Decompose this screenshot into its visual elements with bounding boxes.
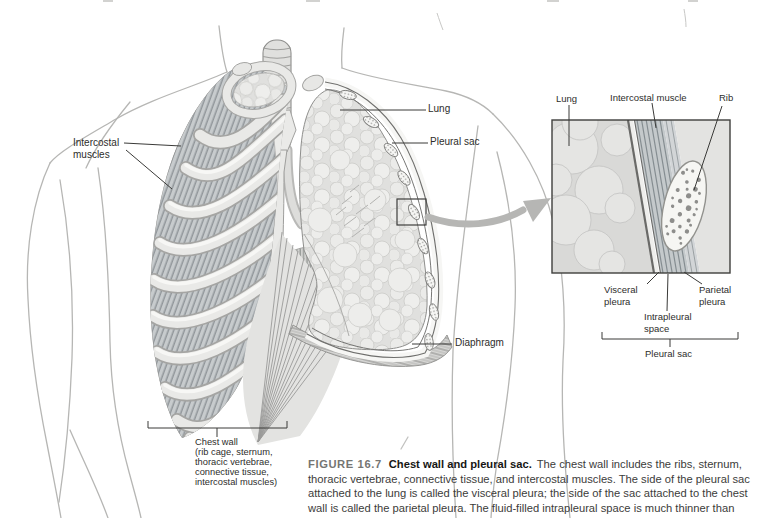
label-diaphragm: Diaphragm <box>455 337 504 349</box>
parietal-line2: pleura <box>699 296 731 308</box>
figure-title: Chest wall and pleural sac. <box>389 458 532 470</box>
label-chest-wall: Chest wall (rib cage, sternum, thoracic … <box>195 438 277 488</box>
inset-label-intercostal-muscle: Intercostal muscle <box>610 92 687 104</box>
inset-label-parietal-pleura: Parietal pleura <box>699 284 731 308</box>
figure-caption: FIGURE 16.7Chest wall and pleural sac.Th… <box>308 457 761 515</box>
chest-wall-line5: intercostal muscles) <box>195 478 277 488</box>
inset-label-lung: Lung <box>556 93 577 105</box>
page-crop-artifacts <box>103 0 698 30</box>
intrapleural-line1: Intrapleural <box>644 311 692 323</box>
inset-label-intrapleural-space: Intrapleural space <box>644 311 692 335</box>
zoom-arrow <box>428 198 551 224</box>
inset-label-pleural-sac: Pleural sac <box>645 348 692 360</box>
right-lung-group <box>289 82 452 366</box>
label-lung: Lung <box>428 103 450 115</box>
textbook-figure-page: Intercostal muscles Lung Pleural sac Dia… <box>0 0 763 518</box>
visceral-line2: pleura <box>604 296 638 308</box>
label-intercostal-line2: muscles <box>73 149 119 161</box>
label-intercostal-muscles: Intercostal muscles <box>73 137 119 160</box>
label-intercostal-line1: Intercostal <box>73 137 119 149</box>
anatomy-illustration <box>0 0 763 518</box>
parietal-line1: Parietal <box>699 284 731 296</box>
visceral-line1: Visceral <box>604 284 638 296</box>
label-pleural-sac: Pleural sac <box>430 136 479 148</box>
inset-label-visceral-pleura: Visceral pleura <box>604 284 638 308</box>
intrapleural-line2: space <box>644 323 692 335</box>
figure-number: FIGURE 16.7 <box>308 458 382 470</box>
inset-label-rib: Rib <box>719 92 733 104</box>
